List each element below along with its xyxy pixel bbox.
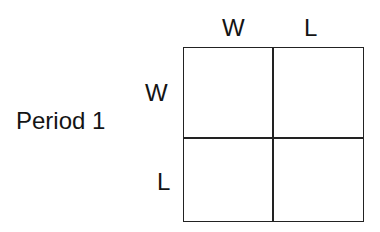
column-header-l: L xyxy=(304,16,317,40)
column-header-w: W xyxy=(222,16,245,40)
row-header-w: W xyxy=(145,81,168,105)
row-header-l: L xyxy=(157,170,170,194)
payoff-grid xyxy=(183,47,364,222)
horizontal-divider xyxy=(184,137,363,139)
vertical-divider xyxy=(272,48,274,221)
period-label: Period 1 xyxy=(16,109,105,133)
